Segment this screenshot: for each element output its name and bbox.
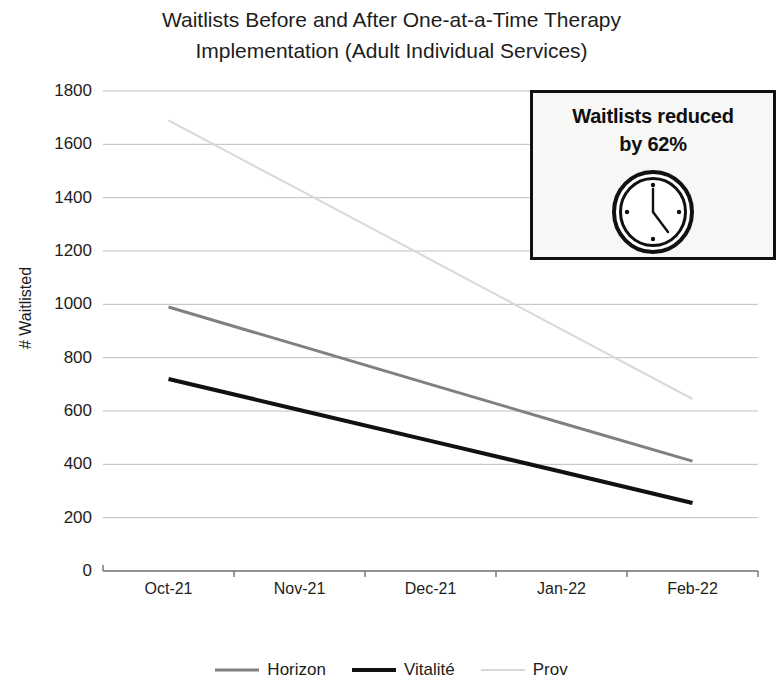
chart-title-line-1: Waitlists Before and After One-at-a-Time…: [40, 4, 743, 35]
callout-text-line-1: Waitlists reduced: [533, 102, 773, 130]
callout-text-line-2: by 62%: [533, 130, 773, 158]
y-axis-tick-labels: 180016001400120010008006004002000: [20, 91, 92, 571]
chart-title-line-2: Implementation (Adult Individual Service…: [40, 35, 743, 66]
legend-label: Vitalité: [404, 660, 455, 680]
legend-swatch-horizon: [215, 664, 259, 676]
y-axis-tick-label: 0: [28, 562, 92, 579]
series-line-horizon: [169, 307, 693, 461]
line-chart: Waitlists Before and After One-at-a-Time…: [0, 0, 783, 690]
x-axis-tick-label: Oct-21: [109, 580, 229, 598]
y-axis-tick-label: 600: [28, 402, 92, 419]
y-axis-tick-label: 800: [28, 349, 92, 366]
series-line-vitalité: [169, 379, 693, 503]
y-axis-tick-label: 400: [28, 455, 92, 472]
x-axis-tick-label: Feb-22: [633, 580, 753, 598]
legend-swatch-vitalité: [352, 664, 396, 676]
x-axis-tick-label: Dec-21: [371, 580, 491, 598]
legend-swatch-prov: [481, 664, 525, 676]
chart-legend: HorizonVitalitéProv: [0, 660, 783, 680]
y-axis-tick-label: 1000: [28, 295, 92, 312]
legend-item-horizon[interactable]: Horizon: [215, 660, 326, 680]
waitlists-reduced-callout: Waitlists reduced by 62%: [530, 90, 776, 260]
clock-icon: [611, 169, 695, 255]
callout-text: Waitlists reduced by 62%: [533, 102, 773, 158]
legend-item-prov[interactable]: Prov: [481, 660, 568, 680]
y-axis-tick-label: 1400: [28, 189, 92, 206]
legend-label: Horizon: [267, 660, 326, 680]
legend-item-vitalité[interactable]: Vitalité: [352, 660, 455, 680]
y-axis-tick-label: 1600: [28, 135, 92, 152]
y-axis-tick-label: 200: [28, 509, 92, 526]
x-axis-tick-labels: Oct-21Nov-21Dec-21Jan-22Feb-22: [103, 580, 758, 606]
y-axis-tick-label: 1200: [28, 242, 92, 259]
chart-title: Waitlists Before and After One-at-a-Time…: [40, 4, 743, 66]
x-axis-tick-label: Nov-21: [240, 580, 360, 598]
legend-label: Prov: [533, 660, 568, 680]
y-axis-tick-label: 1800: [28, 82, 92, 99]
x-axis-tick-label: Jan-22: [502, 580, 622, 598]
